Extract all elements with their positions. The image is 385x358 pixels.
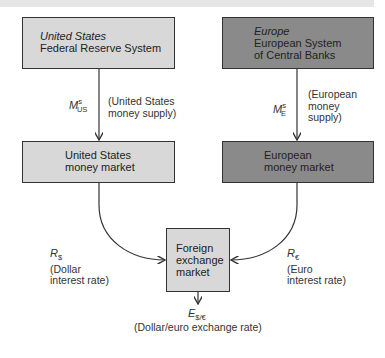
eu-central-banks-box: Europe European System of Central Banks <box>222 17 374 69</box>
us-region-label: United States <box>40 30 161 42</box>
us-money-supply-desc: (United States money supply) <box>108 96 176 119</box>
us-federal-reserve-box: United States Federal Reserve System <box>22 17 175 69</box>
us-money-supply-symbol: MsUS <box>69 96 87 115</box>
eu-money-supply-desc: (European money supply) <box>308 89 357 124</box>
eu-money-supply-symbol: MsE <box>273 100 286 119</box>
eu-central-name-1: European System <box>254 37 341 49</box>
eu-money-market-box: European money market <box>222 141 374 183</box>
exchange-rate-desc: (Dollar/euro exchange rate) <box>134 322 262 334</box>
us-money-market-box: United States money market <box>22 141 175 183</box>
eu-central-name-2: of Central Banks <box>254 49 341 61</box>
euro-interest-rate-label: R€ (Euro interest rate) <box>287 248 346 287</box>
foreign-exchange-market-box: Foreign exchange market <box>166 228 230 292</box>
us-fed-name: Federal Reserve System <box>40 42 161 54</box>
dollar-interest-rate-label: R$ (Dollar interest rate) <box>50 248 109 287</box>
eu-region-label: Europe <box>254 25 341 37</box>
